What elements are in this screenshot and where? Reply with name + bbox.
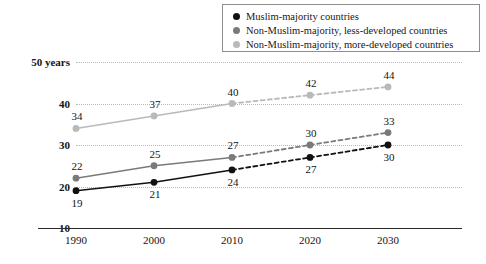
data-point-value-label: 21 (150, 188, 161, 200)
y-axis-tick-label: 40 (59, 98, 70, 110)
data-point-marker (73, 175, 80, 182)
data-point-marker (151, 113, 158, 120)
chart-legend: Muslim-majority countries Non-Muslim-maj… (222, 4, 480, 52)
series-1 (73, 129, 392, 181)
data-point-value-label: 24 (228, 176, 239, 188)
y-axis-tick-label: 30 (59, 139, 70, 151)
data-point-value-label: 19 (72, 197, 83, 209)
x-axis-tick-label: 2020 (299, 234, 321, 246)
data-point-marker (307, 154, 314, 161)
data-point-marker (151, 162, 158, 169)
data-point-value-label: 33 (384, 115, 395, 127)
circle-marker-icon (233, 41, 240, 48)
data-point-marker (307, 142, 314, 149)
x-axis-tick-label: 2030 (377, 234, 399, 246)
projected-segment (310, 145, 388, 157)
y-axis-tick-label: 20 (59, 181, 70, 193)
legend-item-non-muslim-more-developed: Non-Muslim-majority, more-developed coun… (233, 38, 479, 51)
data-point-marker (229, 100, 236, 107)
projected-segment (232, 157, 310, 169)
historical-segment (154, 157, 232, 165)
data-point-marker (385, 142, 392, 149)
y-axis-tick-label: 50 years (31, 56, 70, 68)
legend-label: Non-Muslim-majority, more-developed coun… (246, 39, 453, 50)
projected-segment (310, 133, 388, 145)
median-age-line-chart: Muslim-majority countries Non-Muslim-maj… (0, 0, 486, 264)
historical-segment (76, 166, 154, 178)
circle-marker-icon (233, 13, 240, 20)
data-point-marker (73, 125, 80, 132)
x-axis-line (38, 228, 462, 229)
data-point-value-label: 37 (150, 98, 161, 110)
data-point-marker (73, 187, 80, 194)
data-point-marker (385, 129, 392, 136)
data-point-value-label: 22 (72, 160, 83, 172)
data-point-value-label: 27 (228, 139, 239, 151)
legend-label: Muslim-majority countries (246, 11, 359, 22)
data-point-value-label: 44 (384, 69, 395, 81)
x-axis-tick-label: 2010 (221, 234, 243, 246)
x-axis-tick-label: 2000 (143, 234, 165, 246)
data-point-value-label: 27 (306, 163, 317, 175)
x-axis-tick-label: 1990 (65, 234, 87, 246)
series-layer (76, 62, 462, 228)
historical-segment (154, 104, 232, 116)
data-point-marker (229, 154, 236, 161)
legend-item-muslim-majority: Muslim-majority countries (233, 10, 479, 23)
data-point-value-label: 34 (72, 110, 83, 122)
data-point-marker (307, 92, 314, 99)
legend-item-non-muslim-less-developed: Non-Muslim-majority, less-developed coun… (233, 24, 479, 37)
projected-segment (232, 95, 310, 103)
circle-marker-icon (233, 27, 240, 34)
projected-segment (310, 87, 388, 95)
historical-segment (154, 170, 232, 182)
data-point-value-label: 30 (306, 127, 317, 139)
data-point-value-label: 30 (384, 151, 395, 163)
data-point-value-label: 40 (228, 86, 239, 98)
historical-segment (76, 182, 154, 190)
projected-segment (232, 145, 310, 157)
data-point-marker (385, 84, 392, 91)
legend-label: Non-Muslim-majority, less-developed coun… (246, 25, 447, 36)
data-point-marker (229, 167, 236, 174)
plot-area: 1020304050 years 19212427302225273033343… (76, 62, 462, 228)
historical-segment (76, 116, 154, 128)
data-point-marker (151, 179, 158, 186)
data-point-value-label: 25 (150, 148, 161, 160)
data-point-value-label: 42 (306, 77, 317, 89)
